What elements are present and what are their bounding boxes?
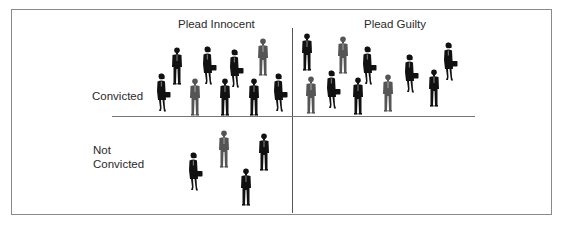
woman-figure-icon bbox=[326, 70, 341, 114]
man-figure-icon bbox=[428, 69, 440, 111]
man-figure-icon bbox=[248, 78, 260, 120]
woman-figure-icon bbox=[202, 46, 217, 90]
man-figure-icon bbox=[218, 130, 230, 172]
man-figure-icon bbox=[240, 168, 252, 210]
woman-figure-icon bbox=[443, 42, 458, 86]
man-figure-icon bbox=[352, 77, 364, 119]
row-label-convicted: Convicted bbox=[92, 89, 143, 103]
woman-figure-icon bbox=[188, 152, 203, 196]
row-label-not-convicted-line1: Not bbox=[93, 143, 144, 157]
woman-figure-icon bbox=[362, 46, 377, 90]
man-figure-icon bbox=[189, 78, 201, 120]
column-divider bbox=[292, 28, 293, 213]
woman-figure-icon bbox=[156, 73, 171, 117]
man-figure-icon bbox=[171, 47, 183, 89]
row-label-not-convicted-line2: Convicted bbox=[93, 157, 144, 171]
row-label-not-convicted: Not Convicted bbox=[93, 143, 144, 171]
man-figure-icon bbox=[258, 133, 270, 175]
woman-figure-icon bbox=[404, 54, 419, 98]
man-figure-icon bbox=[257, 38, 269, 80]
man-figure-icon bbox=[305, 76, 317, 118]
man-figure-icon bbox=[301, 33, 313, 75]
column-header-plead-innocent: Plead Innocent bbox=[178, 17, 255, 31]
woman-figure-icon bbox=[229, 49, 244, 93]
man-figure-icon bbox=[382, 74, 394, 116]
column-header-plead-guilty: Plead Guilty bbox=[364, 17, 426, 31]
woman-figure-icon bbox=[273, 73, 288, 117]
